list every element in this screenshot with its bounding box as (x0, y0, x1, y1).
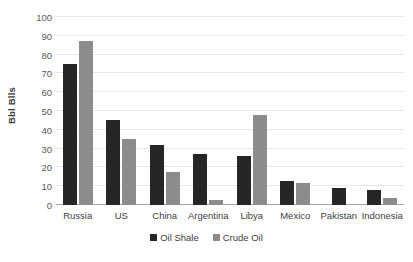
bar[interactable] (296, 183, 310, 205)
bar[interactable] (253, 115, 267, 205)
y-axis-tick-label: 90 (20, 30, 52, 41)
y-axis-tick-label: 60 (20, 87, 52, 98)
y-axis-tick-label: 50 (20, 106, 52, 117)
y-axis-title: Bbl Blls (0, 0, 22, 210)
x-axis-tick-label: Russia (56, 208, 100, 226)
bar-group (361, 17, 405, 205)
y-axis-tick-label: 80 (20, 49, 52, 60)
legend-label: Crude Oil (223, 232, 263, 243)
x-axis-tick-label: Libya (230, 208, 274, 226)
x-axis-tick-label: Pakistan (317, 208, 361, 226)
x-axis-tick-label: Mexico (274, 208, 318, 226)
legend-swatch-icon (213, 234, 220, 241)
bar[interactable] (106, 120, 120, 205)
bar[interactable] (79, 41, 93, 205)
y-axis-tick-label: 100 (20, 12, 52, 23)
bar[interactable] (150, 145, 164, 205)
bar-group (317, 17, 361, 205)
y-axis-tick-label: 10 (20, 181, 52, 192)
y-axis-tick-label: 70 (20, 68, 52, 79)
legend-item[interactable]: Crude Oil (213, 232, 263, 243)
y-axis-tick-label: 0 (20, 200, 52, 211)
bar[interactable] (332, 188, 346, 205)
bar-group (187, 17, 231, 205)
bar[interactable] (383, 198, 397, 205)
chart-legend: Oil ShaleCrude Oil (0, 232, 413, 243)
bar-group (100, 17, 144, 205)
bar[interactable] (237, 156, 251, 205)
x-axis-tick-label: US (100, 208, 144, 226)
y-axis-tick-label: 20 (20, 162, 52, 173)
x-axis-tick-label: Argentina (187, 208, 231, 226)
y-axis-title-text: Bbl Blls (6, 87, 17, 124)
y-axis-tick-label: 30 (20, 143, 52, 154)
bar[interactable] (280, 181, 294, 205)
x-axis-tick-label: Indonesia (361, 208, 405, 226)
bar-group (230, 17, 274, 205)
plot-area (56, 17, 404, 205)
y-axis-tick-labels: 0102030405060708090100 (20, 17, 52, 205)
bar-groups (56, 17, 404, 205)
bar[interactable] (122, 139, 136, 205)
bar-chart: Bbl Blls 0102030405060708090100 RussiaUS… (0, 0, 413, 262)
bar[interactable] (367, 190, 381, 205)
x-axis-tick-label: China (143, 208, 187, 226)
x-axis-tick-labels: RussiaUSChinaArgentinaLibyaMexicoPakista… (56, 208, 404, 226)
bar-group (274, 17, 318, 205)
bar[interactable] (63, 64, 77, 205)
legend-item[interactable]: Oil Shale (150, 232, 199, 243)
y-axis-tick-label: 40 (20, 124, 52, 135)
bar-group (143, 17, 187, 205)
bar[interactable] (166, 172, 180, 205)
bar[interactable] (193, 154, 207, 205)
legend-swatch-icon (150, 234, 157, 241)
legend-label: Oil Shale (160, 232, 199, 243)
bar[interactable] (209, 200, 223, 205)
bar-group (56, 17, 100, 205)
